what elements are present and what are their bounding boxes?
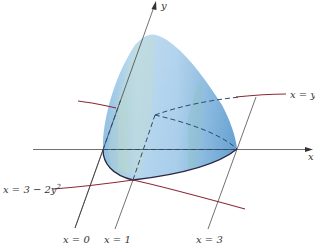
label-x0: x = 0	[63, 234, 90, 245]
y-axis-arrow-icon	[152, 1, 157, 10]
curve-x-eq-3-minus-2y2-left	[53, 180, 133, 189]
solid	[103, 34, 237, 180]
guide-line-x0	[75, 150, 103, 228]
label-lower-curve: x = 3 − 2y2	[3, 183, 62, 195]
label-upper-curve: x = y2	[290, 88, 315, 100]
curve-x-eq-y2-right	[236, 94, 286, 97]
guide-line-x1	[115, 180, 133, 229]
solid-cross-section-diagram: x y x = y2 x = 3 − 2y2 x = 0 x = 1 x = 3	[0, 0, 315, 251]
x-axis-label: x	[308, 151, 314, 162]
label-x3: x = 3	[196, 234, 223, 245]
curve-x-eq-3-minus-2y2-right	[133, 180, 245, 209]
y-axis-label: y	[160, 0, 167, 11]
label-x1: x = 1	[104, 234, 131, 245]
